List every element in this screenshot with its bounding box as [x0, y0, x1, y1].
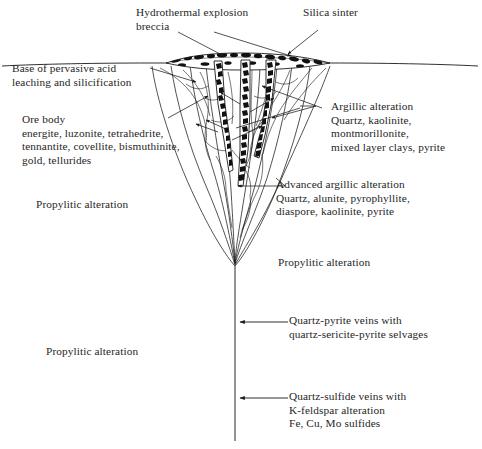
figure-canvas: Hydrothermal explosion breccia Silica si… — [0, 0, 482, 449]
label-ore-body: Ore body energite, luzonite, tetrahedrit… — [22, 113, 180, 167]
label-silica-sinter: Silica sinter — [303, 6, 358, 20]
label-advanced-argillic-alteration: Advanced argillic alteration Quartz, alu… — [276, 178, 410, 219]
label-propylitic-alteration-left-upper: Propylitic alteration — [36, 198, 128, 212]
label-hydrothermal-explosion-breccia: Hydrothermal explosion breccia — [136, 6, 248, 33]
label-propylitic-alteration-left-lower: Propylitic alteration — [46, 345, 138, 359]
label-quartz-pyrite-veins: Quartz-pyrite veins with quartz-sericite… — [289, 314, 428, 341]
hydrothermal-breccia-pipes — [214, 60, 276, 186]
leader-sinter — [288, 30, 318, 54]
label-argillic-alteration: Argillic alteration Quartz, kaolinite, m… — [331, 100, 445, 154]
label-base-of-pervasive-acid-leaching: Base of pervasive acid leaching and sili… — [12, 62, 131, 89]
label-propylitic-alteration-right: Propylitic alteration — [278, 256, 370, 270]
label-quartz-sulfide-veins: Quartz-sulfide veins with K-feldspar alt… — [289, 390, 406, 431]
leader-breccia-2 — [214, 32, 291, 56]
leader-breccia-1 — [178, 32, 224, 56]
